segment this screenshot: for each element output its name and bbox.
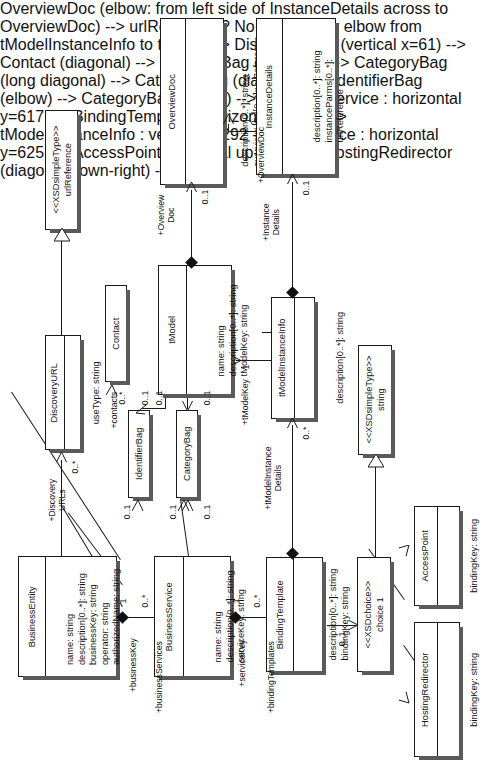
class-box-discoveryurl[interactable]: DiscoveryURL useType: string — [45, 335, 81, 450]
arrowhead-discoveryurl — [56, 452, 67, 463]
assoc-label-servicekey: +serviceKey — [219, 658, 266, 668]
assoc-label-instance-details-line2: Details — [271, 209, 281, 235]
multiplicity-businessservices: 0..* — [139, 596, 152, 606]
class-box-contact[interactable]: Contact — [105, 285, 127, 382]
class-box-urlreference[interactable]: <<XSDsimpleType>> urlReference — [45, 110, 78, 230]
class-box-string-simpletype[interactable]: <<XSDsimpleType>> string — [358, 345, 392, 455]
assoc-line-bindingtemplate-tmodelinstanceinfo — [292, 425, 293, 555]
multiplicity-contacts-src: 0..1 — [138, 393, 152, 403]
attribute-description: description[0..*]: string — [77, 573, 87, 665]
multiplicity-choice: 0..1 — [335, 634, 349, 644]
assoc-label-overviewdoc-instance: +OverviewDoc — [233, 150, 289, 160]
multiplicity-text: 0..1 — [249, 111, 259, 125]
class-name-instancedetails: InstanceDetails — [264, 65, 274, 129]
class-name-string: string — [376, 389, 386, 412]
class-name-identifierbag: IdentifierBag — [134, 428, 144, 480]
class-box-xsdchoice[interactable]: <<XSDchoice>> choice 1 — [357, 557, 391, 672]
multiplicity-overviewdoc-instance-01: 0..1 — [247, 113, 261, 123]
assoc-label-contacts: +contacts — [96, 405, 133, 415]
class-header-contact: Contact — [106, 286, 128, 381]
class-box-identifierbag[interactable]: IdentifierBag — [128, 410, 150, 498]
multiplicity-text: 0..* — [117, 392, 127, 405]
attribute-name: name: string — [216, 325, 226, 376]
arrowhead-tmodelinstanceinfo — [287, 418, 298, 429]
assoc-label-tmodelinstance-line1: +tModelInstance — [263, 447, 273, 510]
attribute-urlreference: urlReference — [335, 89, 345, 142]
multiplicity-text: 1 — [241, 365, 251, 370]
class-header-urlreference: <<XSDsimpleType>> urlReference — [46, 111, 79, 229]
assoc-label-text: +OverviewDoc — [256, 127, 266, 183]
multiplicity-text: 1 — [118, 599, 128, 604]
multiplicity-text: 0..* — [252, 595, 262, 608]
assoc-line-tmodel-overviewdoc — [191, 190, 192, 266]
class-header-identifierbag: IdentifierBag — [129, 411, 151, 497]
multiplicity-categorybag-be: 0..1 — [166, 507, 180, 517]
attribute-operator: operator: string — [100, 602, 110, 665]
arrowhead-xsdchoice — [348, 620, 359, 631]
class-box-businessentity[interactable]: BusinessEntity name: string description[… — [18, 556, 117, 677]
class-box-tmodelinstanceinfo[interactable]: tModelInstanceInfo description[0..*]: st… — [271, 297, 315, 419]
class-stereotype-xsdchoice: <<XSDchoice>> — [363, 581, 373, 649]
class-header-businessentity: BusinessEntity — [19, 557, 45, 676]
assoc-label-discovery-urls: +Discovery URLs — [36, 490, 76, 510]
multiplicity-text: 0..1 — [140, 391, 150, 405]
class-header-overviewdoc: OverviewDoc — [161, 19, 185, 184]
multiplicity-text: 0..1 — [301, 181, 311, 195]
class-name-tmodel: tModel — [167, 316, 177, 344]
class-name-hostingredirector: HostingRedirector — [420, 652, 430, 726]
multiplicity-servicekey: 1 — [234, 596, 239, 606]
arrowhead-categorybag-bs — [182, 500, 194, 512]
multiplicity-text: 0..1 — [202, 391, 212, 405]
multiplicity-text: 0..1 — [200, 190, 210, 204]
class-header-accesspoint: AccessPoint — [415, 507, 437, 605]
multiplicity-overviewdoc-01: 0..1 — [198, 192, 212, 202]
multiplicity-text: 0..* — [70, 461, 80, 474]
assoc-label-tmodelinstance-details: +tModelInstance Details — [242, 468, 296, 488]
multiplicity-tmodelkey: 1 — [244, 362, 249, 372]
assoc-label-text: +tModelKey — [240, 379, 250, 425]
multiplicity-text: 0..* — [140, 595, 150, 608]
assoc-label-discovery-urls-line1: +Discovery — [47, 479, 57, 522]
class-stereotype-urlreference: <<XSDsimpleType>> — [51, 126, 61, 214]
assoc-label-tmodelkey: +tModelKey — [222, 397, 268, 407]
multiplicity-text: 1 — [231, 599, 241, 604]
assoc-label-overview-doc-line2: Doc — [166, 208, 176, 223]
class-box-categorybag[interactable]: CategoryBag — [176, 410, 198, 498]
class-name-contact: Contact — [111, 317, 121, 349]
class-name-accesspoint: AccessPoint — [420, 530, 430, 581]
class-name-businessentity: BusinessEntity — [26, 586, 36, 647]
multiplicity-text: 0..1 — [202, 505, 212, 519]
attribute-description: description[0..*]: string — [312, 51, 322, 143]
multiplicity-categorybag-bs: 0..1 — [200, 507, 214, 517]
class-attributes-hostingredirector: bindingKey: string — [437, 623, 484, 756]
arrowhead-overviewdoc — [186, 182, 197, 193]
generalization-line-xsdchoice-string — [375, 465, 376, 557]
assoc-label-instance-details-line1: +Instance — [261, 203, 271, 241]
attribute-description: description[0..*]: string — [335, 312, 345, 404]
class-box-tmodel[interactable]: tModel name: string description[0..*]: s… — [158, 265, 232, 395]
attribute-name: name: string — [213, 611, 223, 662]
attribute-name: name: string — [65, 613, 75, 664]
multiplicity-text: 0..1 — [154, 391, 164, 405]
class-box-hostingredirector[interactable]: HostingRedirector bindingKey: string — [414, 622, 460, 757]
arrowhead-hostingredirector — [398, 692, 410, 704]
assoc-label-tmodelinstance-line2: Details — [274, 465, 284, 491]
multiplicity-categorybag-tm: 0..1 — [200, 393, 214, 403]
class-header-tmodelinstanceinfo: tModelInstanceInfo — [272, 298, 294, 418]
multiplicity-contacts: 0..* — [116, 393, 129, 403]
class-attributes-tmodel: name: string description[0..*]: string t… — [186, 266, 279, 394]
multiplicity-tmodelinstance-details: 0..* — [300, 428, 313, 438]
multiplicity-identifierbag-tm: 0..1 — [152, 393, 166, 403]
class-box-accesspoint[interactable]: AccessPoint bindingKey: string — [414, 506, 460, 606]
assoc-line-tmodelinstanceinfo-instancedetails — [292, 182, 293, 292]
class-name-categorybag: CategoryBag — [182, 427, 192, 481]
class-box-overviewdoc[interactable]: OverviewDoc description[0..*]: string ov… — [160, 18, 224, 185]
assoc-label-overview-doc-line1: +Overview — [156, 195, 166, 236]
assoc-label-text: +businessKey — [128, 638, 138, 692]
arrowhead-accesspoint — [398, 545, 410, 557]
class-attributes-instancedetails: description[0..*]: string instanceParms[… — [282, 19, 375, 174]
class-header-discoveryurl: DiscoveryURL — [46, 336, 64, 449]
multiplicity-text: 0..1 — [122, 505, 132, 519]
multiplicity-text: 0..1 — [337, 632, 347, 646]
multiplicity-identifierbag-be: 0..1 — [120, 507, 134, 517]
